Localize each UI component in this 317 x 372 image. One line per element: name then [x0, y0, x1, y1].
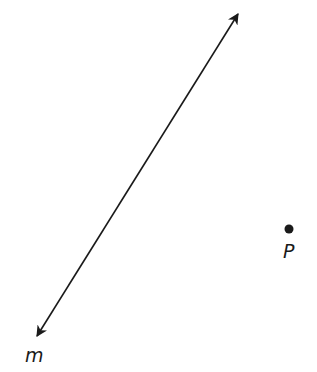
line-m — [37, 14, 238, 336]
diagram-canvas: m P — [0, 0, 317, 372]
point-p — [285, 225, 294, 234]
line-label-m: m — [25, 344, 44, 366]
point-label-p: P — [283, 240, 295, 262]
